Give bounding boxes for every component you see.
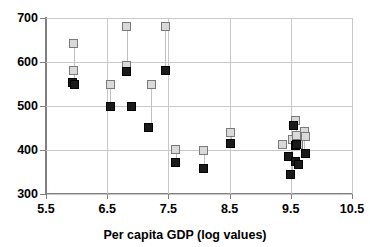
data-point-filled [127, 102, 136, 111]
plot-top-border [46, 18, 352, 19]
x-tick-label: 6.5 [87, 203, 127, 216]
plot-area [46, 18, 352, 194]
pair-connector [151, 85, 152, 127]
data-point-filled [301, 149, 310, 158]
x-axis-title: Per capita GDP (log values) [0, 228, 370, 242]
data-point-filled [289, 121, 298, 130]
x-tick [352, 194, 353, 199]
y-tick-label: 600 [0, 56, 38, 69]
y-tick [40, 18, 46, 19]
data-point-filled [199, 164, 208, 173]
data-point-filled [122, 67, 131, 76]
y-gridline [46, 106, 352, 107]
data-point-open [226, 128, 235, 137]
x-tick-label: 9.5 [271, 203, 311, 216]
data-point-open [147, 80, 156, 89]
x-gridline [168, 18, 169, 194]
data-point-filled [286, 170, 295, 179]
pair-connector [165, 26, 166, 70]
data-point-open [122, 22, 131, 31]
x-tick [46, 194, 47, 199]
data-point-open [171, 145, 180, 154]
y-tick-label: 500 [0, 100, 38, 113]
y-tick-label: 700 [0, 12, 38, 25]
x-tick [230, 194, 231, 199]
y-tick [40, 62, 46, 63]
y-gridline [46, 194, 352, 195]
x-tick [168, 194, 169, 199]
data-point-filled [70, 80, 79, 89]
y-gridline [46, 62, 352, 63]
data-point-filled [294, 160, 303, 169]
x-tick [291, 194, 292, 199]
data-point-open [69, 66, 78, 75]
x-tick-label: 8.5 [210, 203, 250, 216]
x-tick-label: 7.5 [148, 203, 188, 216]
y-tick-label: 400 [0, 144, 38, 157]
data-point-open [278, 140, 287, 149]
scatter-chart: Per capita GDP (log values) 300400500600… [0, 0, 370, 247]
data-point-filled [144, 123, 153, 132]
data-point-open [301, 132, 310, 141]
x-tick [107, 194, 108, 199]
data-point-open [106, 80, 115, 89]
data-point-open [199, 146, 208, 155]
data-point-open [161, 22, 170, 31]
y-tick [40, 106, 46, 107]
data-point-filled [106, 102, 115, 111]
x-gridline [230, 18, 231, 194]
plot-right-border [352, 18, 353, 194]
data-point-filled [171, 158, 180, 167]
data-point-filled [161, 66, 170, 75]
x-tick-label: 10.5 [332, 203, 370, 216]
data-point-open [69, 39, 78, 48]
y-tick-label: 300 [0, 188, 38, 201]
y-tick [40, 150, 46, 151]
data-point-filled [226, 139, 235, 148]
x-tick-label: 5.5 [26, 203, 66, 216]
